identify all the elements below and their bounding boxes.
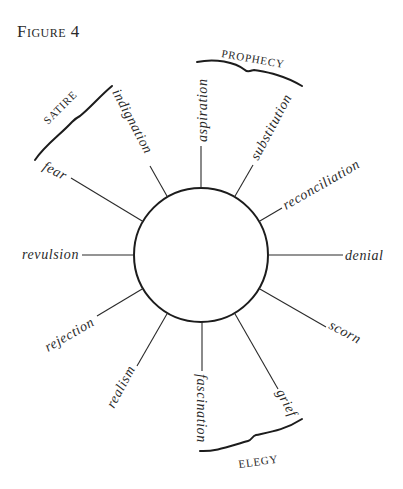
spoke-scorn [259,289,326,328]
spoke-reconciliation [259,208,282,222]
label-revulsion: revulsion [22,247,79,262]
brace-elegy [200,419,302,451]
label-grief: grief [273,386,301,420]
label-aspiration: aspiration [195,78,210,142]
label-substitution: substitution [247,91,294,162]
group-label-elegy: ELEGY [238,453,279,470]
spoke-substitution [235,165,254,197]
label-indignation: indignation [109,86,156,156]
spoke-realism [137,313,168,366]
label-fear: fear [41,158,70,183]
label-realism: realism [103,363,138,410]
spokes [71,146,343,389]
spoke-grief [235,313,279,389]
spoke-rejection [97,289,143,317]
brace-prophecy [197,60,302,86]
label-reconciliation: reconciliation [280,156,362,212]
group-label-prophecy: PROPHECY [221,47,286,70]
label-rejection: rejection [42,314,97,354]
spoke-indignation [150,166,168,197]
center-circle [134,188,268,322]
label-scorn: scorn [327,317,364,346]
label-denial: denial [345,248,384,263]
spoke-fear [71,178,143,222]
label-fascination: fascination [194,374,209,443]
wheel-diagram: aspiration substitution reconciliation d… [0,0,403,489]
